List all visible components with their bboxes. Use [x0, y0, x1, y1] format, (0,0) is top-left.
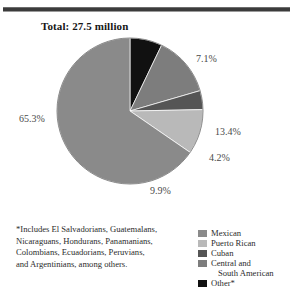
legend-label-central-south-american: Central and	[211, 258, 251, 268]
legend-swatch-icon-cuban	[198, 250, 207, 257]
header-rule	[3, 7, 290, 12]
legend-item-cuban: Cuban	[198, 248, 290, 258]
footnote-line-2: Nicaraguans, Hondurans, Panamanians,	[16, 236, 192, 248]
legend: Mexican Puerto Rican Cuban Central and S…	[198, 228, 290, 288]
footnote-line-1: *Includes El Salvadorians, Guatemalans,	[16, 224, 192, 236]
legend-swatch-icon-puerto-rican	[198, 240, 207, 247]
footnote-line-4: and Argentinians, among others.	[16, 259, 192, 271]
slice-label-other: 7.1%	[196, 53, 217, 64]
legend-swatch-icon-other	[198, 280, 207, 287]
legend-label-mexican: Mexican	[211, 228, 241, 238]
slice-label-mexican: 65.3%	[19, 113, 45, 124]
legend-item-puerto-rican: Puerto Rican	[198, 238, 290, 248]
legend-label-cuban: Cuban	[211, 248, 233, 258]
legend-swatch-icon-central-south-american	[198, 260, 207, 267]
legend-swatch-icon-mexican	[198, 230, 207, 237]
footnote-line-3: Colombians, Ecuadorians, Peruvians,	[16, 247, 192, 259]
slice-label-central-south: 13.4%	[215, 126, 241, 137]
chart-title: Total: 27.5 million	[41, 20, 128, 32]
slice-label-puerto-rican: 9.9%	[150, 185, 171, 196]
pie-chart	[55, 36, 205, 186]
pie-chart-figure: Total: 27.5 million 65.3% 7.1% 13.4% 4.2…	[0, 0, 293, 300]
footnote: *Includes El Salvadorians, Guatemalans, …	[16, 224, 192, 270]
legend-item-mexican: Mexican	[198, 228, 290, 238]
legend-label-puerto-rican: Puerto Rican	[211, 238, 256, 248]
legend-label-other: Other*	[211, 278, 235, 288]
legend-label-central-south-american-line2: South American	[198, 268, 290, 278]
pie-svg	[55, 36, 205, 186]
slice-label-cuban: 4.2%	[209, 152, 230, 163]
legend-item-central-south-american: Central and	[198, 258, 290, 268]
legend-item-other: Other*	[198, 278, 290, 288]
